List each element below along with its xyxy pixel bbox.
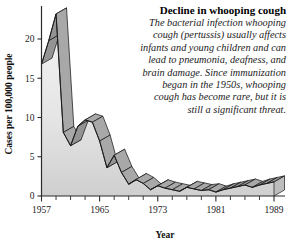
y-axis-tick-label: 0 (30, 191, 35, 201)
x-axis-tick-label: 1981 (206, 205, 225, 215)
y-axis-title: Cases per 100,000 people (4, 53, 14, 154)
y-axis-tick-label: 5 (30, 152, 35, 162)
caption-block: Decline in whooping cough The bacterial … (139, 4, 286, 116)
x-axis-tick-label: 1989 (265, 205, 284, 215)
y-axis-tick-label: 10 (25, 113, 35, 123)
chart-figure: 0510152019571965197319811989 Year Cases … (0, 0, 291, 241)
x-axis-tick-label: 1965 (90, 205, 109, 215)
caption-title: Decline in whooping cough (139, 4, 286, 17)
x-axis-tick-label: 1973 (148, 205, 167, 215)
x-axis-tick-label: 1957 (32, 205, 51, 215)
y-axis-tick-label: 20 (25, 34, 35, 44)
x-axis-title: Year (156, 230, 176, 240)
y-axis-tick-label: 15 (25, 74, 35, 84)
caption-body: The bacterial infection whooping cough (… (139, 17, 286, 116)
